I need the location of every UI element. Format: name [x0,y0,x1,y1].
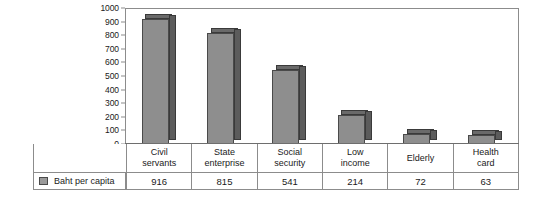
value-cell: 815 [191,173,256,189]
bar-side-face [430,130,437,140]
y-axis-tick-label: 900 [105,17,119,26]
category-cell: Healthcard [453,144,518,172]
category-label-line: State [214,147,235,158]
bar-side-face [299,66,306,140]
bar-elderly [403,129,437,144]
category-label-line: Elderly [407,153,435,164]
category-cell: Elderly [387,144,452,172]
category-cell: Civilservants [126,144,191,172]
bar-side-face [495,131,502,140]
category-label-line: Civil [151,147,168,158]
y-axis-tick-label: 1000 [100,4,119,13]
data-table: CivilservantsStateenterpriseSocialsecuri… [33,144,519,190]
plot-frame [125,8,519,144]
bar-front-face [338,115,365,144]
category-label-line: Low [347,147,364,158]
value-cell: 541 [257,173,322,189]
y-axis-tick-label: 600 [105,58,119,67]
y-axis-tick-label: 400 [105,85,119,94]
legend-swatch-icon [39,177,48,185]
legend-entry: Baht per capita [34,173,126,189]
category-cell: Stateenterprise [191,144,256,172]
bar-front-face [142,19,169,144]
value-cell: 916 [126,173,191,189]
category-label-line: Social [278,147,303,158]
legend-label: Baht per capita [54,176,115,186]
category-label-line: servants [142,158,176,169]
category-header-row: CivilservantsStateenterpriseSocialsecuri… [34,144,518,172]
legend-spacer-cell [34,144,126,172]
y-axis-tick-label: 500 [105,72,119,81]
y-axis-tick-label: 800 [105,31,119,40]
y-axis-tick-label: 100 [105,126,119,135]
value-cell: 214 [322,173,387,189]
value-cell: 72 [387,173,452,189]
bar-chart-figure: 10009008007006005004003002001000 Civilse… [0,0,549,197]
category-label-line: enterprise [204,158,244,169]
category-cell: Socialsecurity [257,144,322,172]
category-label-line: security [274,158,305,169]
y-axis-tick-label: 300 [105,99,119,108]
y-axis-tick-label: 700 [105,44,119,53]
value-row: Baht per capita 9168155412147263 [34,172,518,189]
bar-health-card [468,130,502,144]
value-cell: 63 [453,173,518,189]
category-cell: Lowincome [322,144,387,172]
bar-side-face [234,29,241,140]
bar-front-face [272,70,299,144]
y-axis: 10009008007006005004003002001000 [86,8,125,144]
bar-state-enterprise [207,28,241,144]
bar-low-income [338,110,372,144]
plot-area [126,9,518,144]
y-axis-tick-label: 200 [105,112,119,121]
bar-social-security [272,65,306,144]
category-label-line: income [341,158,370,169]
category-label-line: card [477,158,495,169]
bar-side-face [365,111,372,140]
bar-side-face [169,15,176,140]
bar-front-face [207,33,234,144]
bar-civil-servants [142,14,176,144]
category-label-line: Health [473,147,499,158]
